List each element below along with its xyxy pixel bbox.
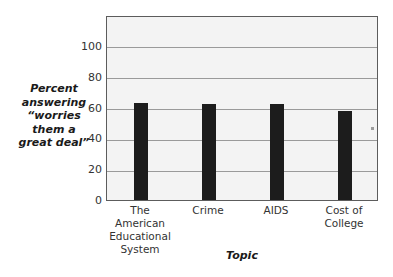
y-axis-tick-label: 80 <box>62 72 102 83</box>
y-axis-tick-label: 20 <box>62 164 102 175</box>
y-axis-tick-labels: 020406080100 <box>58 16 102 201</box>
gridline <box>107 78 377 79</box>
gridline <box>107 47 377 48</box>
y-axis-tick-label: 100 <box>62 41 102 52</box>
y-axis-tick-label: 40 <box>62 133 102 144</box>
bar <box>338 111 352 200</box>
y-axis-tick-label: 0 <box>62 195 102 206</box>
x-axis-tick-labels: The American Educational SystemCrimeAIDS… <box>106 204 378 250</box>
y-axis-tick-label: 60 <box>62 103 102 114</box>
scan-artifact-dot <box>371 127 374 130</box>
x-axis-title: Topic <box>106 249 378 262</box>
x-axis-tick-label: Crime <box>174 204 242 217</box>
x-axis-tick-label: Cost of College <box>310 204 378 230</box>
plot-area <box>106 16 378 201</box>
bar <box>202 104 216 200</box>
bar <box>270 104 284 200</box>
bar-chart-figure: Percent answering “worries them a great … <box>0 0 393 277</box>
x-axis-tick-label: AIDS <box>242 204 310 217</box>
bar <box>134 103 148 200</box>
